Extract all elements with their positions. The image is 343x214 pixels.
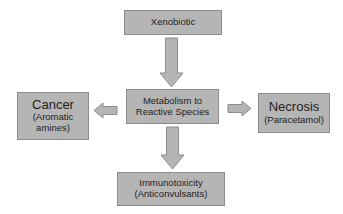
arrow-down-icon (161, 127, 185, 171)
node-xenobiotic: Xenobiotic (124, 10, 222, 35)
arrow-left-icon (94, 103, 118, 119)
node-cancer-sub2: amines) (36, 123, 70, 134)
node-necrosis-title: Necrosis (269, 100, 320, 114)
node-xenobiotic-label: Xenobiotic (151, 17, 195, 28)
node-cancer-title: Cancer (32, 98, 74, 112)
node-immunotoxicity-line2: (Anticonvulsants) (135, 189, 208, 200)
node-metabolism-line2: Reactive Species (136, 107, 209, 118)
node-metabolism-line1: Metabolism to (143, 96, 202, 107)
arrow-down-icon (160, 38, 184, 88)
node-necrosis-sub: (Paracetamol) (264, 115, 324, 126)
node-necrosis: Necrosis (Paracetamol) (258, 93, 330, 133)
node-metabolism: Metabolism to Reactive Species (126, 89, 219, 124)
arrow-right-icon (228, 101, 252, 117)
node-cancer: Cancer (Aromatic amines) (17, 92, 89, 140)
node-immunotoxicity: Immunotoxicity (Anticonvulsants) (117, 172, 225, 206)
